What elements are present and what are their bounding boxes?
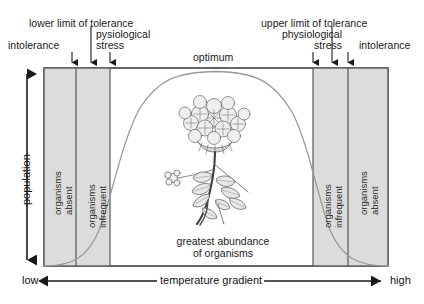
center-caption: greatest abundance of organisms bbox=[143, 235, 303, 259]
band-label-left-absent-line2: absent bbox=[64, 171, 75, 215]
band-label-right-absent-line1: organisms bbox=[359, 171, 370, 215]
plant-illustration bbox=[152, 88, 282, 228]
band-label-left-infrequent: organisms infrequent bbox=[87, 184, 108, 228]
band-label-left-absent: organisms absent bbox=[53, 171, 74, 215]
band-label-right-absent: organisms absent bbox=[359, 171, 380, 215]
band-label-right-infrequent: organisms infrequent bbox=[323, 184, 344, 228]
y-axis-label: population bbox=[20, 154, 32, 205]
center-caption-line1: greatest abundance bbox=[143, 235, 303, 247]
x-axis-min-label: low bbox=[22, 274, 39, 286]
center-caption-line2: of organisms bbox=[143, 247, 303, 259]
x-axis-max-label: high bbox=[390, 274, 411, 286]
x-axis-label: temperature gradient bbox=[160, 274, 262, 286]
band-label-right-infrequent-line2: infrequent bbox=[334, 184, 345, 228]
band-label-right-infrequent-line1: organisms bbox=[323, 184, 334, 228]
tolerance-diagram: lower limit of tolerance upper limit of … bbox=[0, 0, 424, 304]
band-label-left-infrequent-line2: infrequent bbox=[98, 184, 109, 228]
band-label-left-infrequent-line1: organisms bbox=[87, 184, 98, 228]
band-label-left-absent-line1: organisms bbox=[53, 171, 64, 215]
band-label-right-absent-line2: absent bbox=[370, 171, 381, 215]
